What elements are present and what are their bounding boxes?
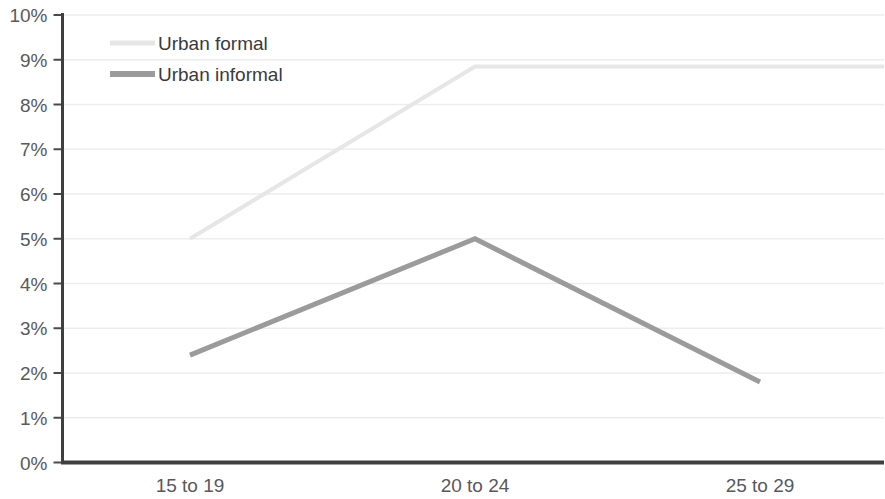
y-axis-tick-label: 0% xyxy=(20,453,48,474)
x-axis-tick-label: 15 to 19 xyxy=(156,475,225,496)
y-axis-tick-label: 5% xyxy=(20,229,48,250)
y-axis-tick-label: 4% xyxy=(20,274,48,295)
y-axis-tick-label: 1% xyxy=(20,408,48,429)
line-chart: 0%1%2%3%4%5%6%7%8%9%10% 15 to 1920 to 24… xyxy=(0,0,885,499)
legend-label-1: Urban formal xyxy=(158,33,268,54)
legend-label-2: Urban informal xyxy=(158,64,283,85)
y-axis-tick-label: 9% xyxy=(20,50,48,71)
y-axis-tick-label: 2% xyxy=(20,363,48,384)
x-axis-tick-label: 20 to 24 xyxy=(441,475,510,496)
y-axis-tick-label: 3% xyxy=(20,318,48,339)
chart-canvas: 0%1%2%3%4%5%6%7%8%9%10% 15 to 1920 to 24… xyxy=(0,0,885,499)
y-axis-tick-label: 8% xyxy=(20,95,48,116)
y-axis-tick-label: 10% xyxy=(9,5,47,26)
y-axis-tick-label: 6% xyxy=(20,184,48,205)
y-axis-tick-label: 7% xyxy=(20,139,48,160)
x-axis-tick-label: 25 to 29 xyxy=(726,475,795,496)
